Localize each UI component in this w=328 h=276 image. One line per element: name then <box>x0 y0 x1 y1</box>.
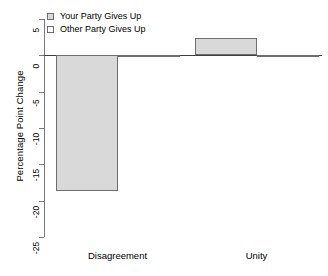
bar <box>257 55 319 57</box>
y-tick-label: -5 <box>31 91 41 115</box>
y-tick-label: 5 <box>31 18 41 42</box>
x-axis-label: Unity <box>246 250 268 261</box>
y-tick-label: -20 <box>31 200 41 224</box>
x-axis-label: Disagreement <box>88 250 147 261</box>
y-tick-label: -10 <box>31 127 41 151</box>
plot-area: 50-5-10-15-20-25 <box>44 14 322 240</box>
legend-label-1: Other Party Gives Up <box>60 24 146 35</box>
legend-swatch-open-icon <box>47 26 54 33</box>
y-axis-line <box>44 19 45 237</box>
bar <box>118 55 180 57</box>
y-tick-label: -25 <box>31 236 41 260</box>
bar-chart: Percentage Point Change 50-5-10-15-20-25… <box>0 0 328 276</box>
y-tick-label: -15 <box>31 163 41 187</box>
legend-swatch-shaded-icon <box>47 13 54 20</box>
legend-label-0: Your Party Gives Up <box>60 11 141 22</box>
legend: Your Party Gives Up Other Party Gives Up <box>47 11 146 37</box>
legend-item-0: Your Party Gives Up <box>47 11 146 22</box>
bar <box>56 55 118 191</box>
bar <box>195 38 257 55</box>
legend-item-1: Other Party Gives Up <box>47 24 146 35</box>
y-tick-label: 0 <box>31 54 41 78</box>
y-axis-title: Percentage Point Change <box>14 6 28 246</box>
